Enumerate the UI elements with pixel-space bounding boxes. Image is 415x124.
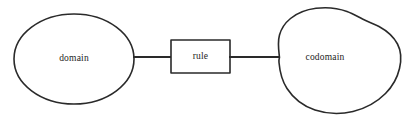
diagram-canvas: domain rule codomain: [0, 0, 415, 124]
node-rule[interactable]: rule: [171, 40, 230, 73]
node-codomain[interactable]: codomain: [278, 8, 400, 114]
codomain-label: codomain: [305, 52, 344, 62]
rule-label: rule: [193, 51, 209, 61]
domain-label: domain: [59, 53, 89, 63]
node-domain[interactable]: domain: [14, 14, 134, 104]
diagram-svg: domain rule codomain: [0, 0, 415, 124]
